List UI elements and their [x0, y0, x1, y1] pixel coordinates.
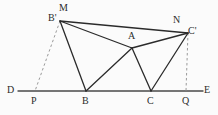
edge-A-C [132, 48, 151, 91]
geometry-figure: D P B C Q E B' M A N C' [0, 0, 218, 115]
label-point-C: C [147, 96, 154, 106]
edge-Bprime-B [60, 21, 86, 91]
label-point-M: M [59, 3, 68, 13]
label-point-E: E [204, 85, 210, 95]
label-point-A: A [128, 31, 135, 41]
label-point-D: D [7, 85, 14, 95]
label-point-B-prime: B' [48, 13, 56, 23]
dashed-line-Bprime-P [35, 21, 60, 91]
edge-Bprime-Cprime [60, 21, 188, 33]
label-point-Q: Q [182, 96, 189, 106]
label-point-N: N [173, 15, 180, 25]
label-point-B: B [82, 96, 89, 106]
label-point-P: P [31, 96, 37, 106]
label-point-C-prime: C' [188, 26, 196, 36]
edge-B-A [86, 48, 132, 91]
dashed-line-Cprime-Q [186, 33, 188, 91]
